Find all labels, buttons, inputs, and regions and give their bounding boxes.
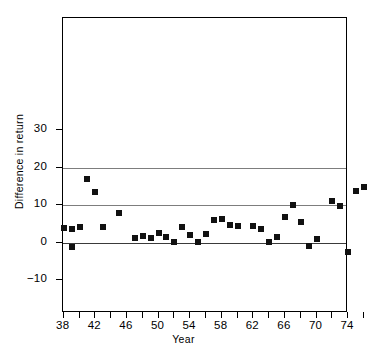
x-axis-title: Year — [0, 334, 367, 345]
x-tick-mark — [173, 312, 174, 318]
x-tick-mark — [79, 312, 80, 318]
x-axis: 38424650545862667074788288 — [0, 0, 367, 347]
y-axis-title: Difference in return — [14, 82, 25, 242]
x-tick-mark — [158, 312, 159, 318]
x-tick-mark — [189, 312, 190, 318]
x-tick-label: 42 — [88, 320, 101, 332]
x-tick-label: 66 — [277, 320, 290, 332]
x-tick-label: 46 — [119, 320, 132, 332]
x-tick-label: 62 — [246, 320, 259, 332]
x-tick-mark — [268, 312, 269, 318]
x-tick-label: 58 — [214, 320, 227, 332]
x-tick-label: 70 — [309, 320, 322, 332]
x-tick-label: 74 — [340, 320, 353, 332]
x-tick-mark — [110, 312, 111, 318]
x-tick-mark — [252, 312, 253, 318]
x-tick-mark — [347, 312, 348, 318]
x-tick-mark — [316, 312, 317, 318]
x-tick-mark — [237, 312, 238, 318]
x-tick-mark — [221, 312, 222, 318]
x-tick-label: 54 — [182, 320, 195, 332]
x-tick-mark — [331, 312, 332, 318]
x-tick-mark — [63, 312, 64, 318]
x-tick-mark — [300, 312, 301, 318]
x-tick-mark — [363, 312, 364, 318]
x-tick-mark — [126, 312, 127, 318]
x-tick-mark — [94, 312, 95, 318]
x-tick-label: 38 — [56, 320, 69, 332]
x-tick-mark — [205, 312, 206, 318]
x-tick-label: 50 — [151, 320, 164, 332]
scatter-chart-figure: 3020100−10 38424650545862667074788288 Di… — [0, 0, 367, 347]
x-tick-mark — [284, 312, 285, 318]
x-tick-mark — [142, 312, 143, 318]
